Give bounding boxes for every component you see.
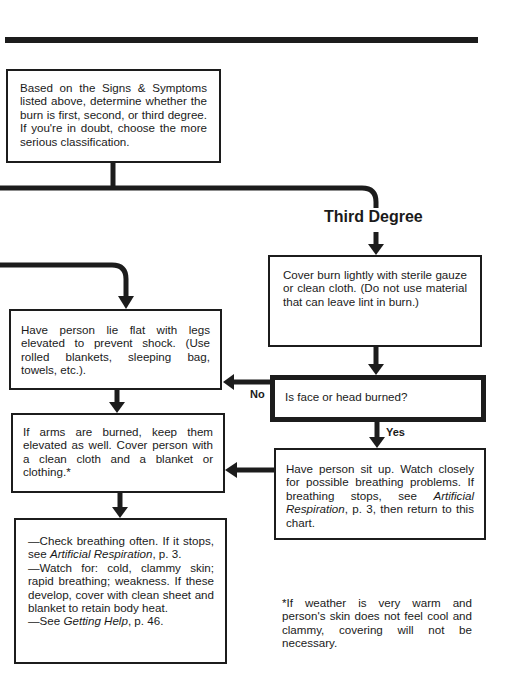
getting-help-ref: Getting Help (63, 614, 127, 627)
check-breathing-item: —Check breathing often. If it stops, see… (28, 534, 214, 561)
classify-burn-box: Based on the Signs & Symptoms listed abo… (6, 69, 221, 163)
face-head-question-box: Is face or head burned? (270, 375, 486, 422)
getting-help-item: —See Getting Help, p. 46. (28, 614, 214, 627)
sit-up-text: Have person sit up. Watch closely for po… (286, 462, 474, 529)
classify-burn-text: Based on the Signs & Symptoms listed abo… (20, 81, 207, 148)
footnote: *If weather is very warm and person's sk… (282, 596, 472, 650)
shock-box: Have person lie flat with legs elevated … (9, 309, 222, 390)
no-label: No (250, 388, 265, 400)
artificial-respiration-ref: Artificial Respiration (50, 547, 152, 560)
shock-text: Have person lie flat with legs elevated … (21, 323, 210, 377)
face-head-question-text: Is face or head burned? (285, 390, 473, 403)
cover-burn-text: Cover burn lightly with sterile gauze or… (283, 268, 467, 308)
arms-text: If arms are burned, keep them elevated a… (23, 425, 213, 479)
third-degree-label: Third Degree (324, 208, 423, 226)
monitoring-box: —Check breathing often. If it stops, see… (14, 518, 227, 664)
arms-box: If arms are burned, keep them elevated a… (11, 413, 225, 493)
watch-for-item: —Watch for: cold, clammy skin; rapid bre… (28, 561, 214, 615)
yes-label: Yes (386, 426, 405, 438)
sit-up-box: Have person sit up. Watch closely for po… (274, 448, 486, 540)
cover-burn-box: Cover burn lightly with sterile gauze or… (268, 255, 482, 347)
